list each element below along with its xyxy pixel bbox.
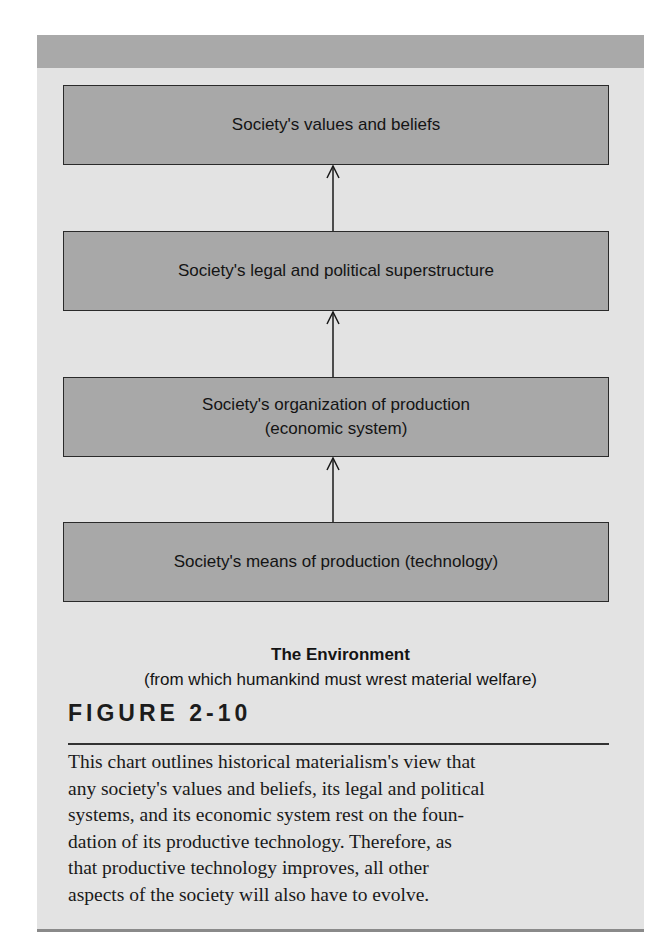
box-values-beliefs: Society's values and beliefs (63, 85, 609, 165)
box-label: Society's values and beliefs (232, 115, 440, 134)
box-label: Society's legal and political superstruc… (178, 261, 494, 280)
arrow-up-icon (326, 165, 340, 231)
arrow-up-icon (326, 311, 340, 377)
figure-label: FIGURE 2-10 (68, 700, 251, 727)
header-band (37, 35, 644, 68)
figure-divider (68, 743, 609, 745)
box-label: Society's means of production (technolog… (174, 552, 499, 571)
bottom-rule (37, 929, 644, 932)
box-sublabel: (economic system) (265, 419, 408, 438)
environment-subtitle: (from which humankind must wrest materia… (37, 670, 644, 690)
box-legal-political: Society's legal and political superstruc… (63, 231, 609, 311)
box-organization-production: Society's organization of production (ec… (63, 377, 609, 457)
environment-title: The Environment (37, 645, 644, 665)
figure-caption: This chart outlines historical materiali… (68, 749, 618, 908)
box-label: Society's organization of production (202, 395, 470, 414)
arrow-up-icon (326, 457, 340, 522)
box-means-production: Society's means of production (technolog… (63, 522, 609, 602)
